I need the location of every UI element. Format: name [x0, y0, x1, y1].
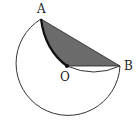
- shaded-region: [41, 19, 120, 66]
- figure-drawing: [0, 0, 139, 129]
- geometry-figure: A O B: [0, 0, 139, 129]
- arc-OB: [67, 66, 120, 72]
- point-O: [65, 64, 69, 68]
- label-O: O: [60, 71, 70, 83]
- label-A: A: [37, 3, 46, 15]
- label-B: B: [124, 60, 133, 72]
